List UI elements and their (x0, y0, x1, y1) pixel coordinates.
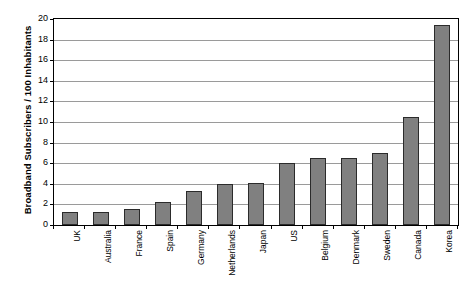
x-label-slot: UK (53, 228, 84, 294)
y-axis-tick-label: 6 (26, 158, 48, 167)
bar-slot (396, 19, 427, 225)
bar-slot (85, 19, 116, 225)
x-label-slot: Denmark (333, 228, 364, 294)
x-label-slot: Australia (84, 228, 115, 294)
y-axis-tick-label: 18 (26, 34, 48, 43)
bar[interactable] (434, 25, 450, 225)
bar[interactable] (341, 158, 357, 225)
bar-slot (334, 19, 365, 225)
y-axis-tick-labels: 20181614121086420 (26, 12, 48, 230)
y-axis-tick-label: 4 (26, 178, 48, 187)
x-axis-category-label: Australia (104, 230, 113, 263)
x-label-slot: Sweden (364, 228, 395, 294)
x-axis-category-label: Japan (259, 230, 268, 253)
bar-slot (272, 19, 303, 225)
x-axis-category-label: Korea (445, 230, 454, 253)
x-axis-category-label: France (135, 230, 144, 256)
x-label-slot: Belgium (302, 228, 333, 294)
y-axis-tick-label: 2 (26, 199, 48, 208)
x-axis-category-label: Netherlands (228, 230, 237, 276)
x-label-slot: Netherlands (208, 228, 239, 294)
bar[interactable] (124, 209, 140, 225)
x-axis-category-label: Germany (197, 230, 206, 265)
y-axis-tick-label: 10 (26, 117, 48, 126)
x-label-slot: Canada (395, 228, 426, 294)
bar-chart-figure: Broadband Subscribers / 100 Inhabitants … (0, 0, 476, 297)
x-label-slot: Spain (146, 228, 177, 294)
bars-layer (54, 19, 458, 225)
bar-slot (365, 19, 396, 225)
x-label-slot: Japan (239, 228, 270, 294)
plot-area (53, 18, 459, 226)
bar[interactable] (62, 212, 78, 225)
x-label-slot: US (271, 228, 302, 294)
bar[interactable] (403, 117, 419, 225)
y-axis-tick-label: 16 (26, 55, 48, 64)
bar-slot (178, 19, 209, 225)
bar-slot (147, 19, 178, 225)
bar[interactable] (372, 153, 388, 225)
x-label-slot: France (115, 228, 146, 294)
bar-slot (427, 19, 458, 225)
y-axis-tick-label: 14 (26, 75, 48, 84)
bar-slot (116, 19, 147, 225)
x-axis-category-label: UK (73, 230, 82, 242)
bar[interactable] (248, 183, 264, 225)
x-axis-category-label: Spain (166, 230, 175, 252)
bar[interactable] (279, 163, 295, 225)
x-axis-category-label: US (290, 230, 299, 242)
y-axis-tick-label: 0 (26, 220, 48, 229)
bar-slot (303, 19, 334, 225)
x-axis-tick-mark (457, 225, 458, 229)
x-axis-category-label: Denmark (352, 230, 361, 264)
x-label-slot: Korea (426, 228, 457, 294)
bar[interactable] (93, 212, 109, 225)
x-axis-category-labels: UKAustraliaFranceSpainGermanyNetherlands… (53, 228, 457, 294)
x-axis-category-label: Canada (414, 230, 423, 260)
x-axis-category-label: Belgium (321, 230, 330, 261)
bar-slot (240, 19, 271, 225)
bar[interactable] (155, 202, 171, 225)
bar-slot (209, 19, 240, 225)
y-axis-tick-label: 12 (26, 96, 48, 105)
bar[interactable] (217, 184, 233, 225)
bar[interactable] (310, 158, 326, 225)
bar-slot (54, 19, 85, 225)
y-axis-tick-label: 20 (26, 14, 48, 23)
y-axis-tick-label: 8 (26, 137, 48, 146)
bar[interactable] (186, 191, 202, 225)
x-axis-category-label: Sweden (383, 230, 392, 261)
x-label-slot: Germany (177, 228, 208, 294)
